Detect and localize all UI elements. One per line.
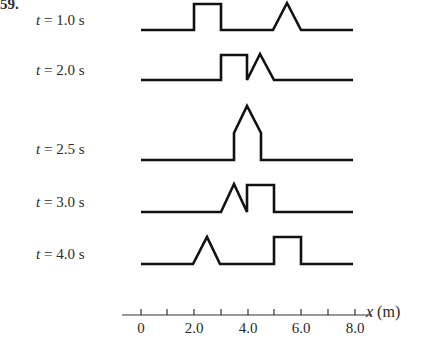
tick-label: 0 [137, 320, 145, 337]
axis-unit: (m) [373, 303, 400, 320]
tick-label: 8.0 [346, 320, 365, 337]
waveform-t2 [141, 54, 353, 80]
pulse-diagram [0, 0, 438, 341]
waveform-t5 [141, 237, 353, 264]
waveform-t1 [141, 3, 353, 30]
tick-label: 2.0 [185, 320, 204, 337]
waveform-t4 [141, 184, 353, 212]
waveform-t3 [141, 106, 353, 160]
tick-label: 6.0 [292, 320, 311, 337]
tick-label: 4.0 [239, 320, 258, 337]
x-axis [122, 309, 372, 315]
axis-title: x (m) [366, 303, 400, 321]
